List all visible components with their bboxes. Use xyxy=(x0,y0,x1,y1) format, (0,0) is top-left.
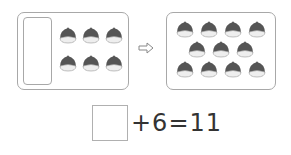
blank-slot xyxy=(23,17,52,85)
equation-text: +6=11 xyxy=(131,108,222,138)
answer-input-box[interactable] xyxy=(92,105,128,141)
chestnut-icon xyxy=(81,55,101,72)
chestnut-icon xyxy=(104,27,124,44)
chestnut-icon xyxy=(81,27,101,44)
chestnut-icon xyxy=(58,27,78,44)
chestnut-icon xyxy=(175,61,195,78)
chestnut-icon xyxy=(175,21,195,38)
left-group-panel xyxy=(17,12,129,90)
chestnut-icon xyxy=(199,21,219,38)
chestnut-icon xyxy=(235,41,255,58)
chestnut-icon xyxy=(247,61,267,78)
chestnut-icon xyxy=(223,21,243,38)
chestnut-icon xyxy=(199,61,219,78)
right-arrow-icon xyxy=(138,42,154,54)
chestnut-icon xyxy=(223,61,243,78)
right-group-panel xyxy=(166,12,276,90)
chestnut-icon xyxy=(247,21,267,38)
chestnut-icon xyxy=(187,41,207,58)
chestnut-icon xyxy=(211,41,231,58)
chestnut-icon xyxy=(58,55,78,72)
chestnut-icon xyxy=(104,55,124,72)
